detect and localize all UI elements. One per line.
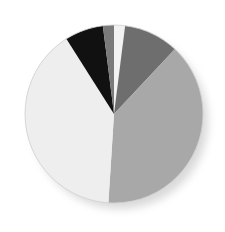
- pie-chart-canvas: [0, 0, 225, 232]
- pie-slice-group: [25, 25, 203, 203]
- pie-chart-figure: none: [0, 0, 225, 232]
